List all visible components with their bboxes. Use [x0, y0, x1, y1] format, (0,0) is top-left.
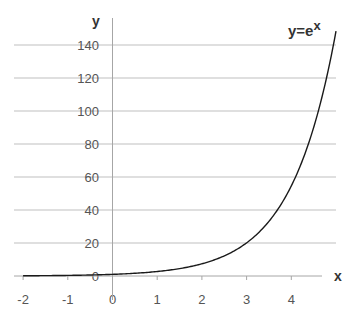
exp-curve: [23, 31, 336, 276]
x-tick-label: 4: [288, 292, 295, 307]
y-tick-label: 140: [77, 38, 99, 53]
x-tick-label: -1: [62, 292, 74, 307]
y-tick-label: 80: [85, 137, 99, 152]
x-tick-label: 2: [198, 292, 205, 307]
y-tick-label: 20: [85, 236, 99, 251]
y-tick-label: 120: [77, 71, 99, 86]
chart-title: y=ex: [288, 18, 321, 39]
x-tick-label: -2: [17, 292, 29, 307]
y-tick-label: 40: [85, 203, 99, 218]
gridlines: [14, 45, 336, 243]
x-axis-tick-labels: -2-101234: [17, 276, 295, 307]
y-axis-title: y: [92, 13, 100, 29]
x-tick-label: 3: [243, 292, 250, 307]
chart-title-superscript: x: [313, 18, 321, 33]
x-axis-title: x: [334, 268, 342, 284]
chart-title-base: y=e: [288, 22, 313, 39]
y-tick-label: 100: [77, 104, 99, 119]
y-axis-tick-labels: 020406080100120140: [77, 38, 99, 284]
exponential-chart: 020406080100120140 -2-101234 y x y=ex: [0, 0, 352, 322]
y-tick-label: 60: [85, 170, 99, 185]
x-tick-label: 1: [154, 292, 161, 307]
